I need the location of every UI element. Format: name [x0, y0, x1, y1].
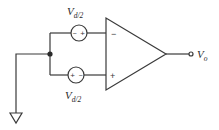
- ground-branch: [10, 54, 50, 123]
- bottom-source-plus: +: [70, 71, 75, 80]
- op-amp-circuit-diagram: − + Vd/2 + − Vd/2 − + Vo: [0, 0, 219, 130]
- bottom-source-minus: −: [78, 72, 82, 79]
- noninverting-input-sign: +: [110, 71, 115, 81]
- bottom-source-branch: + − Vd/2: [50, 67, 106, 104]
- junction-node: [47, 51, 52, 56]
- output-label: Vo: [197, 48, 208, 63]
- output-terminal-icon: [189, 52, 193, 56]
- inverting-input-sign: −: [111, 29, 116, 39]
- bottom-source-label: Vd/2: [65, 89, 82, 104]
- op-amp: − +: [106, 18, 166, 90]
- top-source-label: Vd/2: [67, 5, 84, 20]
- ground-icon: [10, 113, 22, 123]
- top-source-plus: +: [80, 29, 85, 38]
- ground-wire: [16, 54, 50, 113]
- top-source-branch: − + Vd/2: [50, 5, 106, 41]
- output-branch: Vo: [166, 48, 208, 63]
- top-source-minus: −: [72, 30, 76, 37]
